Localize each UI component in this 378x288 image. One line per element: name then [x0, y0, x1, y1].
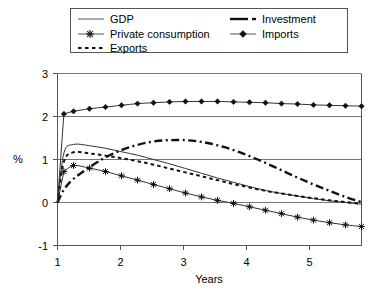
data-point-marker [278, 210, 285, 217]
data-point-marker [262, 207, 269, 214]
data-point-marker [198, 194, 205, 201]
data-point-marker [230, 200, 237, 207]
legend-swatch-private-consumption-asterisk-icon [86, 30, 94, 38]
y-tick-label-0: 0 [42, 197, 48, 209]
data-point-marker [214, 197, 221, 204]
data-point-marker [358, 223, 365, 230]
data-point-marker [150, 181, 157, 188]
data-point-marker [134, 177, 141, 184]
data-point-marker [246, 203, 253, 210]
x-tick-label-3: 3 [180, 256, 186, 268]
data-point-marker [102, 168, 109, 175]
data-point-marker [294, 214, 301, 221]
x-axis-title: Years [195, 273, 223, 285]
x-tick-label-5: 5 [306, 256, 312, 268]
data-point-marker [166, 185, 173, 192]
y-tick-label-1: 1 [42, 154, 48, 166]
economic-impulse-response-chart: GDP Investment Private consumption [0, 0, 378, 288]
data-point-marker [70, 162, 77, 169]
data-point-marker [342, 221, 349, 228]
chart-root: GDP Investment Private consumption [0, 0, 378, 288]
data-point-marker [182, 190, 189, 197]
x-tick-label-4: 4 [243, 256, 249, 268]
data-point-marker [326, 219, 333, 226]
legend-label-private-consumption: Private consumption [110, 28, 210, 40]
x-tick-label-1: 1 [54, 256, 60, 268]
legend-label-exports: Exports [110, 42, 148, 54]
data-point-marker [310, 217, 317, 224]
chart-background [0, 0, 378, 288]
y-tick-label-3: 3 [42, 68, 48, 80]
legend-label-gdp: GDP [110, 13, 134, 25]
data-point-marker [118, 172, 125, 179]
legend-label-imports: Imports [262, 28, 299, 40]
y-tick-label-neg1: -1 [38, 240, 48, 252]
y-axis-title: % [13, 153, 23, 165]
legend-label-investment: Investment [262, 13, 316, 25]
y-tick-label-2: 2 [42, 111, 48, 123]
x-tick-label-2: 2 [117, 256, 123, 268]
